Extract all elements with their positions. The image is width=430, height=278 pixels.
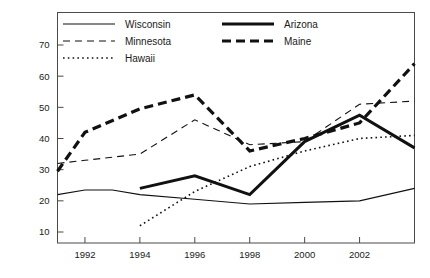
x-tick-label: 1998 [239, 249, 260, 260]
x-tick-label: 2000 [294, 249, 315, 260]
x-tick-label: 1992 [74, 249, 95, 260]
x-tick-label: 2002 [349, 249, 370, 260]
y-tick-label: 10 [39, 226, 50, 237]
y-tick-label: 60 [39, 71, 50, 82]
legend-label-arizona: Arizona [284, 19, 318, 30]
legend-label-maine: Maine [284, 36, 312, 47]
chart-container: 10203040506070 199219941996199820002002 … [0, 0, 430, 278]
y-tick-label: 30 [39, 164, 50, 175]
line-chart: 10203040506070 199219941996199820002002 … [0, 0, 430, 278]
y-tick-label: 70 [39, 39, 50, 50]
y-tick-label: 40 [39, 133, 50, 144]
chart-background [0, 0, 430, 278]
x-tick-label: 1996 [184, 249, 205, 260]
legend-label-hawaii: Hawaii [125, 53, 155, 64]
legend-label-minnesota: Minnesota [125, 36, 172, 47]
x-tick-label: 1994 [129, 249, 150, 260]
legend-label-wisconsin: Wisconsin [125, 19, 171, 30]
y-tick-label: 20 [39, 195, 50, 206]
y-tick-label: 50 [39, 102, 50, 113]
